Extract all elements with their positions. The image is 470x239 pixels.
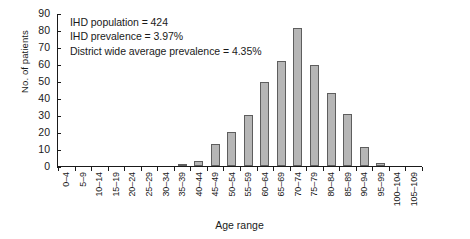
x-tick-label: 90–94 (359, 172, 369, 197)
x-label-slot: 15–19 (108, 172, 125, 214)
x-tick-mark (174, 167, 175, 171)
x-tick-label: 75–79 (309, 172, 319, 197)
bar (227, 132, 236, 166)
y-tick-label: 30 (38, 109, 50, 122)
bar (310, 65, 319, 166)
x-tick-label: 45–49 (210, 172, 220, 197)
y-tick-label: 40 (38, 92, 50, 105)
x-label-slot: 65–69 (273, 172, 290, 214)
x-tick-mark (91, 167, 92, 171)
x-label-slot: 70–74 (290, 172, 307, 214)
x-tick-mark (240, 167, 241, 171)
bar (211, 144, 220, 166)
x-label-slot: 85–89 (339, 172, 356, 214)
x-tick-mark (290, 167, 291, 171)
bar (244, 115, 253, 166)
bar (178, 164, 187, 166)
x-tick-mark (339, 167, 340, 171)
bar (260, 82, 269, 166)
x-tick-mark (108, 167, 109, 171)
x-tick-mark (75, 167, 76, 171)
x-tick-mark (190, 167, 191, 171)
x-tick-label: 70–74 (293, 172, 303, 197)
x-tick-label: 30–34 (161, 172, 171, 197)
x-label-slot: 40–44 (190, 172, 207, 214)
y-tick-label: 90 (38, 7, 50, 20)
x-axis-tick-labels: 0–45–910–1415–1920–2425–2930–3435–3940–4… (58, 172, 422, 214)
x-tick-label: 40–44 (194, 172, 204, 197)
x-tick-mark (389, 167, 390, 171)
x-tick-label: 15–19 (111, 172, 121, 197)
x-tick-mark (157, 167, 158, 171)
x-label-slot: 105–109 (405, 172, 422, 214)
bar (194, 161, 203, 166)
bar-slot (323, 14, 340, 166)
bar (293, 28, 302, 166)
x-tick-mark (257, 167, 258, 171)
x-tick-mark (207, 167, 208, 171)
x-tick-label: 65–69 (276, 172, 286, 197)
x-label-slot: 60–64 (257, 172, 274, 214)
x-label-slot: 100–104 (389, 172, 406, 214)
annotation-line: IHD prevalence = 3.97% (70, 29, 261, 43)
bar (277, 61, 286, 166)
x-tick-label: 10–14 (94, 172, 104, 197)
x-label-slot: 50–54 (223, 172, 240, 214)
x-label-slot: 10–14 (91, 172, 108, 214)
annotation-line: IHD population = 424 (70, 15, 261, 29)
y-tick-label: 20 (38, 126, 50, 139)
x-tick-label: 35–39 (177, 172, 187, 197)
bar-slot (273, 14, 290, 166)
x-label-slot: 75–79 (306, 172, 323, 214)
bar (327, 93, 336, 166)
x-label-slot: 25–29 (141, 172, 158, 214)
bar-slot (372, 14, 389, 166)
x-label-slot: 55–59 (240, 172, 257, 214)
y-tick-label: 50 (38, 75, 50, 88)
x-tick-label: 60–64 (260, 172, 270, 197)
x-label-slot: 5–9 (75, 172, 92, 214)
x-tick-mark (372, 167, 373, 171)
x-tick-mark (223, 167, 224, 171)
x-tick-mark (141, 167, 142, 171)
bar-slot (389, 14, 406, 166)
x-tick-label: 85–89 (343, 172, 353, 197)
x-tick-label: 95–99 (376, 172, 386, 197)
x-axis-title: Age range (57, 219, 422, 231)
x-tick-label: 5–9 (78, 172, 88, 187)
bar (360, 147, 369, 166)
chart-figure: No. of patients 0102030405060708090 0–45… (0, 0, 470, 239)
x-tick-label: 100–104 (392, 172, 402, 206)
y-tick-label: 70 (38, 41, 50, 54)
bar-slot (339, 14, 356, 166)
x-label-slot: 95–99 (372, 172, 389, 214)
annotation-text-block: IHD population = 424IHD prevalence = 3.9… (70, 15, 261, 58)
x-tick-mark (273, 167, 274, 171)
x-tick-label: 50–54 (227, 172, 237, 197)
x-label-slot: 80–84 (323, 172, 340, 214)
y-tick-label: 10 (38, 143, 50, 156)
bar-slot (405, 14, 422, 166)
x-label-slot: 35–39 (174, 172, 191, 214)
x-label-slot: 90–94 (356, 172, 373, 214)
annotation-line: District wide average prevalence = 4.35% (70, 44, 261, 58)
x-tick-mark (356, 167, 357, 171)
bar (376, 163, 385, 166)
bar (343, 114, 352, 166)
x-tick-label: 25–29 (144, 172, 154, 197)
x-tick-mark (405, 167, 406, 171)
y-axis-title: No. of patients (19, 0, 30, 132)
x-tick-mark (422, 167, 423, 171)
x-tick-label: 0–4 (61, 172, 71, 187)
y-tick-label: 0 (44, 160, 50, 173)
x-tick-mark (124, 167, 125, 171)
x-label-slot: 0–4 (58, 172, 75, 214)
x-tick-label: 80–84 (326, 172, 336, 197)
x-tick-mark (306, 167, 307, 171)
x-label-slot: 20–24 (124, 172, 141, 214)
x-tick-label: 20–24 (127, 172, 137, 197)
x-label-slot: 45–49 (207, 172, 224, 214)
x-tick-mark (323, 167, 324, 171)
bar-slot (356, 14, 373, 166)
y-tick-label: 60 (38, 58, 50, 71)
